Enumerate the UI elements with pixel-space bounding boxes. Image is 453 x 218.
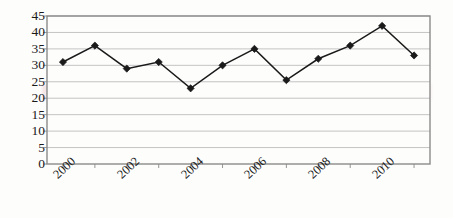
x-axis-labels: 200020022004200620082010 [0,0,453,218]
x-axis-tick-label: 2004 [179,155,206,181]
x-axis-tick-label: 2006 [242,155,269,181]
x-axis-tick-label: 2008 [306,155,333,181]
x-axis-tick-label: 2010 [370,155,397,181]
chart-figure: 454035302520151050 200020022004200620082… [0,0,453,218]
x-axis-tick-label: 2000 [51,155,78,181]
x-axis-tick-label: 2002 [115,155,142,181]
